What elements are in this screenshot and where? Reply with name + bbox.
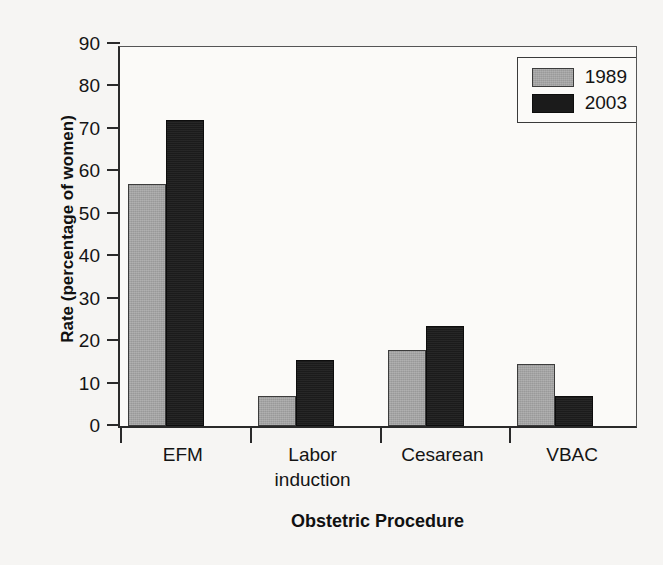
bar-cesarean-2003 <box>426 326 464 426</box>
black-swatch-icon <box>532 94 574 113</box>
y-axis-tick: 40 <box>107 254 120 256</box>
y-axis-tick-label: 10 <box>79 373 100 395</box>
x-axis-label-cesarean: Cesarean <box>378 442 508 467</box>
x-axis-tick <box>120 426 122 443</box>
legend-item-2003: 2003 <box>532 90 627 116</box>
x-axis-label-line: VBAC <box>507 442 637 467</box>
bar-vbac-2003 <box>555 396 593 426</box>
y-axis-title: Rate (percentage of women) <box>58 49 78 409</box>
chart-legend: 1989 2003 <box>517 57 636 123</box>
x-axis-label-line: EFM <box>118 442 248 467</box>
y-axis-tick: 50 <box>107 212 120 214</box>
y-axis-tick: 20 <box>107 339 120 341</box>
gray-swatch-icon <box>532 68 574 87</box>
legend-label-1989: 1989 <box>585 66 627 88</box>
x-axis-title: Obstetric Procedure <box>118 511 637 532</box>
legend-item-1989: 1989 <box>532 64 627 90</box>
x-axis-tick <box>250 426 252 443</box>
x-axis-tick <box>509 426 511 443</box>
plot-area: 0102030405060708090 1989 2003 <box>118 46 637 428</box>
bar-chart-figure: Rate (percentage of women) 0102030405060… <box>0 0 663 565</box>
bar-cesarean-1989 <box>388 350 426 426</box>
y-axis-tick: 90 <box>107 42 120 44</box>
y-axis-tick-label: 20 <box>79 330 100 352</box>
y-axis-tick: 60 <box>107 169 120 171</box>
y-axis-tick: 30 <box>107 297 120 299</box>
bar-efm-2003 <box>166 120 204 426</box>
bar-labor-induction-2003 <box>296 360 334 426</box>
x-axis-label-vbac: VBAC <box>507 442 637 467</box>
y-axis-tick-label: 50 <box>79 203 100 225</box>
x-axis-label-line: induction <box>248 467 378 492</box>
x-axis-label-line: Cesarean <box>378 442 508 467</box>
y-axis-tick: 80 <box>107 84 120 86</box>
y-axis-tick-label: 0 <box>89 415 100 437</box>
y-axis-tick-label: 80 <box>79 75 100 97</box>
y-axis-tick: 10 <box>107 382 120 384</box>
y-axis-tick: 70 <box>107 127 120 129</box>
x-axis-label-labor-induction: Laborinduction <box>248 442 378 492</box>
x-axis-label-line: Labor <box>248 442 378 467</box>
x-axis-label-efm: EFM <box>118 442 248 467</box>
y-axis-tick: 0 <box>107 424 120 426</box>
legend-label-2003: 2003 <box>585 92 627 114</box>
y-axis-tick-label: 60 <box>79 160 100 182</box>
y-axis-tick-label: 90 <box>79 33 100 55</box>
bar-efm-1989 <box>128 184 166 426</box>
bar-vbac-1989 <box>517 364 555 426</box>
bar-labor-induction-1989 <box>258 396 296 426</box>
x-axis-tick <box>380 426 382 443</box>
y-axis-tick-label: 70 <box>79 118 100 140</box>
y-axis-tick-label: 30 <box>79 288 100 310</box>
y-axis-tick-label: 40 <box>79 245 100 267</box>
